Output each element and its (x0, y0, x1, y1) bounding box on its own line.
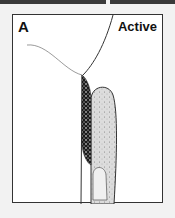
surface-line (83, 15, 113, 75)
gingiva-line (27, 45, 82, 75)
active-lesion (82, 75, 91, 165)
top-border-right (110, 0, 175, 4)
pulp (93, 168, 107, 201)
tooth-lesion-illustration (13, 15, 164, 204)
illustration-panel: A Active (12, 14, 163, 203)
top-border-left (0, 0, 106, 4)
